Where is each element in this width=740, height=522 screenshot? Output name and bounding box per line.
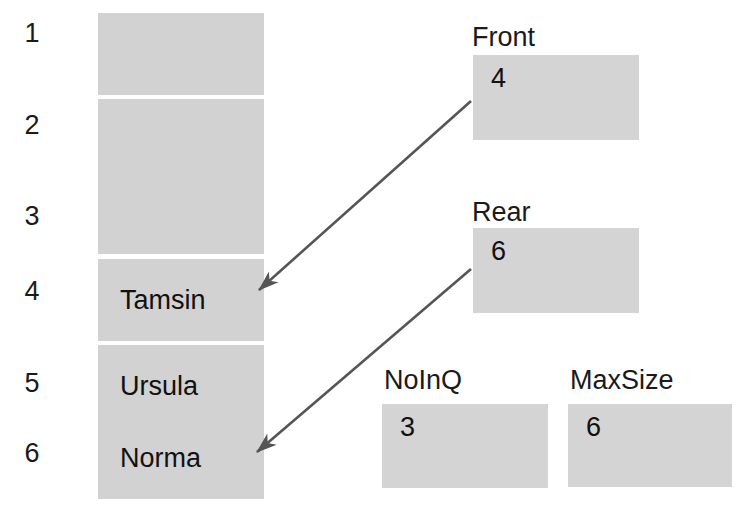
front-to-cell-4-arrow xyxy=(259,101,471,290)
maxsize-label: MaxSize xyxy=(570,367,674,394)
noinq-value: 3 xyxy=(400,413,415,443)
rear-value: 6 xyxy=(491,237,506,267)
row-index-5: 5 xyxy=(12,370,52,397)
row-index-6: 6 xyxy=(12,440,52,467)
maxsize-value: 6 xyxy=(586,413,601,443)
array-cell-3[interactable] xyxy=(98,172,264,254)
array-cell-1[interactable] xyxy=(98,13,264,95)
noinq-label: NoInQ xyxy=(384,367,462,394)
rear-box[interactable]: 6 xyxy=(473,228,639,313)
front-value: 4 xyxy=(491,64,506,94)
array-cell-6[interactable]: Norma xyxy=(98,417,264,499)
array-cell-5-label: Ursula xyxy=(120,373,198,400)
array-cell-4-label: Tamsin xyxy=(120,287,206,314)
array-cell-6-label: Norma xyxy=(120,445,201,472)
row-index-4: 4 xyxy=(12,278,52,305)
front-box[interactable]: 4 xyxy=(473,55,639,140)
front-label: Front xyxy=(472,24,535,51)
array-cell-4[interactable]: Tamsin xyxy=(98,259,264,341)
rear-label: Rear xyxy=(472,199,531,226)
row-index-1: 1 xyxy=(12,20,52,47)
array-cell-5[interactable]: Ursula xyxy=(98,345,264,427)
queue-diagram: 1 2 3 4 5 6 Tamsin Ursula Norma Front 4 … xyxy=(0,0,740,522)
maxsize-box[interactable]: 6 xyxy=(568,404,732,487)
noinq-box[interactable]: 3 xyxy=(382,404,548,488)
row-index-2: 2 xyxy=(12,112,52,139)
array-cell-2[interactable] xyxy=(98,99,264,181)
row-index-3: 3 xyxy=(12,203,52,230)
